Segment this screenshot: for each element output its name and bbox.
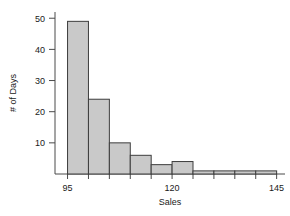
histogram-bar (88, 99, 109, 174)
y-tick-label-40: 40 (35, 45, 45, 55)
histogram-bar (130, 155, 151, 174)
histogram-bar (256, 171, 277, 174)
x-tick-label-145: 145 (269, 183, 284, 193)
histogram-bar (214, 171, 235, 174)
y-tick-label-10: 10 (35, 138, 45, 148)
histogram-chart: 1020304050 95120145 # of Days Sales (0, 0, 290, 216)
histogram-bar (193, 171, 214, 174)
x-tick-label-95: 95 (63, 183, 73, 193)
histogram-bar (68, 21, 89, 174)
y-axis-title: # of Days (8, 73, 18, 112)
histogram-bar (109, 143, 130, 174)
y-tick-label-50: 50 (35, 14, 45, 24)
y-tick-label-30: 30 (35, 76, 45, 86)
x-tick-label-120: 120 (165, 183, 180, 193)
histogram-bar (235, 171, 256, 174)
chart-canvas: 1020304050 95120145 # of Days Sales (0, 0, 290, 216)
x-axis-title: Sales (159, 197, 182, 207)
histogram-bar (151, 165, 172, 174)
histogram-bar (172, 162, 193, 174)
y-tick-label-20: 20 (35, 107, 45, 117)
